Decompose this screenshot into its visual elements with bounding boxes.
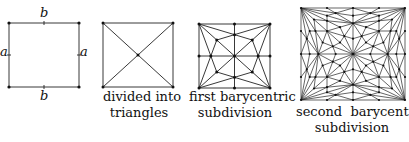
caption-triangulated: divided into triangles: [103, 89, 175, 121]
second-barycentric-panel: [300, 7, 406, 101]
square-panel: [7, 21, 81, 89]
edge-label-bottom: b: [40, 88, 48, 103]
edge-label-top: b: [40, 5, 48, 20]
caption-line: first barycentric: [189, 89, 281, 105]
edge-label-left: a: [0, 44, 8, 59]
caption-line: second barycentric: [296, 104, 408, 120]
caption-line: subdivision: [296, 120, 408, 136]
caption-line: triangles: [103, 105, 175, 121]
triangulated-square-panel: [102, 22, 175, 89]
edge-label-right: a: [80, 44, 88, 59]
first-barycentric-panel: [198, 23, 272, 90]
caption-first-barycentric: first barycentric subdivision: [189, 89, 281, 121]
caption-second-barycentric: second barycentric subdivision: [296, 104, 408, 136]
caption-line: divided into: [103, 89, 175, 105]
caption-line: subdivision: [189, 105, 281, 121]
